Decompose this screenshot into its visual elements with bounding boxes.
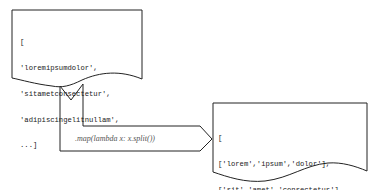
- input-line: 'sitametconsectetur',: [20, 90, 119, 99]
- output-document-text: [ ['lorem','ipsum','dolor'], ['sit','ame…: [218, 117, 347, 190]
- diagram-canvas: [ 'loremipsumdolor', 'sitametconsectetur…: [0, 0, 379, 190]
- output-line: ['lorem','ipsum','dolor'],: [218, 160, 347, 169]
- input-line: [: [20, 38, 119, 47]
- input-line: 'adipiscingelitnullam',: [20, 116, 119, 125]
- output-line: [: [218, 134, 347, 143]
- transform-label: .map(lambda x: x.split()): [75, 134, 155, 143]
- input-line: 'loremipsumdolor',: [20, 64, 119, 73]
- input-document-text: [ 'loremipsumdolor', 'sitametconsectetur…: [20, 21, 119, 167]
- output-line: ['sit','amet','consectetur'],: [218, 186, 347, 190]
